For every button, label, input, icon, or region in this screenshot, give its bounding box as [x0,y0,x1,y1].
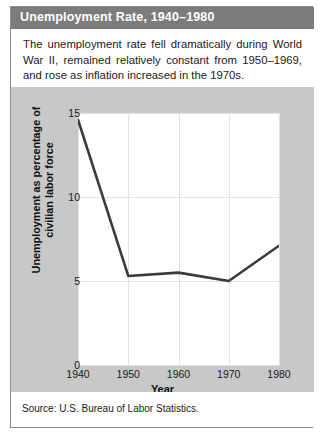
y-axis-tick-label: 5 [74,276,80,286]
line-series-unemployment-rate [78,113,279,365]
figure-title-bar: Unemployment Rate, 1940–1980 [11,7,314,29]
x-axis-tick-label: 1970 [217,369,240,379]
x-axis-tick-label: 1950 [117,369,140,379]
figure-description: The unemployment rate fell dramatically … [11,29,314,87]
figure-frame: Unemployment Rate, 1940–1980 The unemplo… [10,6,313,428]
source-text: Source: U.S. Bureau of Labor Statistics. [22,403,199,414]
source-bar: Source: U.S. Bureau of Labor Statistics. [11,392,314,427]
unemployment-rate-figure: Unemployment Rate, 1940–1980 The unemplo… [0,0,323,437]
data-line [78,120,279,281]
x-axis-tick-label: 1980 [267,369,290,379]
description-text: The unemployment rate fell dramatically … [23,37,302,84]
gridline-horizontal [78,365,279,366]
y-axis-tick-label: 15 [68,108,80,118]
x-axis-tick-label: 1960 [167,369,190,379]
x-axis-title: Year [11,383,314,392]
page-title: Unemployment Rate, 1940–1980 [20,10,215,24]
x-axis-tick-label: 1940 [66,369,89,379]
y-axis-title: Unemployment as percentage of civilian l… [30,100,56,280]
chart-panel: 051015 19401950196019701980 Year Unemplo… [11,87,314,392]
y-axis-tick-label: 10 [68,192,80,202]
gridline-vertical [279,113,280,365]
